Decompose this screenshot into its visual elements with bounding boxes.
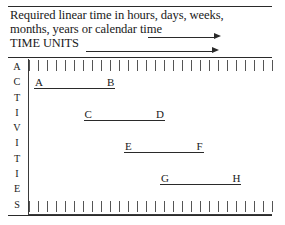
axis-tick: [155, 60, 156, 71]
activity-start-label: A: [35, 76, 43, 88]
axis-tick: [47, 60, 48, 71]
axis-tick: [227, 60, 228, 71]
arrow-head: [214, 33, 221, 39]
axis-tick: [83, 60, 84, 71]
axis-tick: [119, 201, 120, 212]
axis-tick: [209, 201, 210, 212]
axis-tick: [65, 201, 66, 212]
axis-tick: [38, 60, 39, 71]
axis-tick: [209, 60, 210, 71]
axis-tick: [56, 201, 57, 212]
header-line-2: months, years or calendar time: [10, 22, 162, 37]
frame-top-border: [8, 6, 272, 7]
activity-start-label: G: [161, 172, 169, 184]
axis-tick: [182, 60, 183, 71]
activities-letter: V: [13, 123, 20, 133]
activities-letter: A: [13, 62, 20, 72]
axis-tick: [101, 201, 102, 212]
activity-start-label: C: [84, 108, 91, 120]
header-divider: [8, 57, 272, 58]
arrow-shaft: [148, 37, 216, 38]
axis-tick: [56, 60, 57, 71]
axis-tick: [74, 201, 75, 212]
axis-tick: [119, 60, 120, 71]
axis-tick: [83, 201, 84, 212]
activity-duration-line: [84, 120, 165, 121]
activity-start-label: E: [125, 140, 132, 152]
axis-tick: [173, 201, 174, 212]
activities-letter: T: [14, 154, 20, 164]
axis-tick: [47, 201, 48, 212]
axis-tick: [200, 201, 201, 212]
activity-duration-line: [34, 88, 115, 89]
activity-duration-line: [160, 184, 241, 185]
time-units-label: TIME UNITS: [10, 36, 79, 51]
axis-tick: [236, 60, 237, 71]
time-axis-ticks-top: [29, 60, 272, 71]
axis-tick: [92, 60, 93, 71]
gantt-time-units-figure: Required linear time in hours, days, wee…: [0, 0, 285, 225]
axis-tick: [218, 60, 219, 71]
figure-header: Required linear time in hours, days, wee…: [10, 8, 272, 52]
axis-tick: [92, 201, 93, 212]
header-line-1: Required linear time in hours, days, wee…: [10, 8, 224, 23]
axis-tick: [65, 60, 66, 71]
activities-letter: I: [15, 138, 18, 148]
time-axis-ticks-bottom: [29, 201, 272, 212]
axis-tick: [137, 60, 138, 71]
axis-tick: [254, 60, 255, 71]
activities-letter: I: [15, 169, 18, 179]
activities-letter: E: [14, 184, 20, 194]
axis-tick: [272, 201, 273, 212]
axis-tick: [254, 201, 255, 212]
plot-area: ABCDEFGH: [28, 59, 272, 215]
axis-tick: [146, 201, 147, 212]
activity-end-label: B: [107, 76, 114, 88]
axis-tick: [128, 201, 129, 212]
x-axis-baseline: [28, 214, 272, 215]
axis-tick: [236, 201, 237, 212]
axis-tick: [110, 60, 111, 71]
axis-tick: [29, 201, 30, 212]
activity-bar: EF: [124, 137, 203, 153]
frame-bottom-border: [8, 215, 272, 216]
activities-axis-label: A C T I V I T I E S: [8, 62, 26, 210]
activities-letter: C: [14, 77, 21, 87]
activity-bar: GH: [160, 169, 241, 185]
arrow-shaft: [86, 51, 214, 52]
axis-tick: [146, 60, 147, 71]
axis-tick: [245, 201, 246, 212]
axis-tick: [245, 60, 246, 71]
axis-tick: [164, 60, 165, 71]
axis-tick: [74, 60, 75, 71]
axis-tick: [110, 201, 111, 212]
activity-end-label: D: [156, 108, 164, 120]
activities-letter: I: [15, 108, 18, 118]
activity-duration-line: [124, 152, 203, 153]
axis-tick: [191, 201, 192, 212]
axis-tick: [128, 60, 129, 71]
activity-bar: CD: [84, 105, 165, 121]
activity-bar: AB: [34, 73, 115, 89]
y-axis-line: [28, 59, 29, 215]
axis-tick: [263, 60, 264, 71]
axis-tick: [173, 60, 174, 71]
axis-tick: [182, 201, 183, 212]
activity-end-label: H: [232, 172, 240, 184]
axis-tick: [272, 60, 273, 71]
activity-end-label: F: [196, 140, 202, 152]
axis-tick: [227, 201, 228, 212]
axis-tick: [29, 60, 30, 71]
axis-tick: [191, 60, 192, 71]
axis-tick: [101, 60, 102, 71]
axis-tick: [38, 201, 39, 212]
axis-tick: [218, 201, 219, 212]
activities-letter: S: [14, 200, 20, 210]
axis-tick: [200, 60, 201, 71]
arrow-head: [212, 47, 219, 53]
activities-letter: T: [14, 93, 20, 103]
axis-tick: [164, 201, 165, 212]
axis-tick: [155, 201, 156, 212]
axis-tick: [263, 201, 264, 212]
axis-tick: [137, 201, 138, 212]
